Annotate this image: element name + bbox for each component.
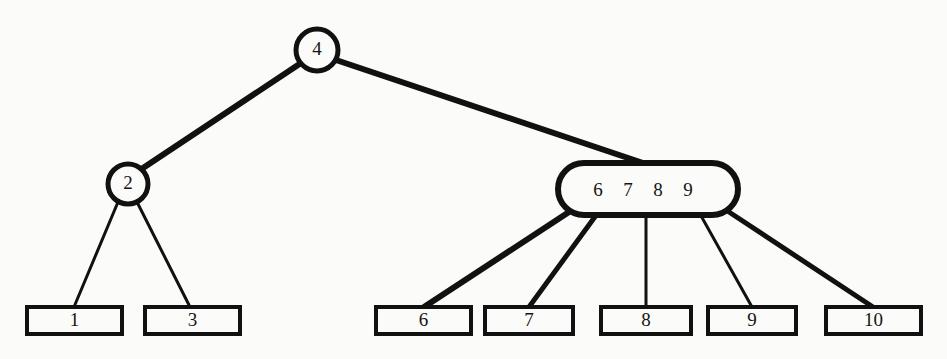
- edge-multikey-to-leaf6: [424, 212, 569, 307]
- leaf-node-6-label: 6: [419, 309, 429, 330]
- root-node[interactable]: 4: [296, 29, 338, 71]
- leaf-node-1-label: 1: [70, 309, 80, 330]
- root-node-label: 4: [312, 38, 322, 59]
- edge-multikey-to-leaf9: [700, 214, 752, 307]
- edge-root-to-node2: [140, 63, 301, 170]
- diagram-canvas: 4 2 6 7 8 9 1 3 6: [0, 0, 947, 359]
- leaf-node-1[interactable]: 1: [27, 307, 122, 334]
- leaf-node-10[interactable]: 10: [826, 307, 921, 334]
- multikey-node-key-2: 8: [653, 179, 663, 200]
- multikey-node-shape: [558, 163, 738, 215]
- leaf-node-8[interactable]: 8: [601, 307, 691, 334]
- leaf-node-8-label: 8: [641, 309, 651, 330]
- internal-node-2[interactable]: 2: [108, 164, 148, 204]
- leaf-node-10-label: 10: [864, 309, 883, 330]
- multikey-node-key-3: 9: [683, 179, 693, 200]
- tree-diagram: 4 2 6 7 8 9 1 3 6: [0, 0, 947, 359]
- leaf-node-9[interactable]: 9: [708, 307, 796, 334]
- leaf-group: 1 3 6 7 8 9 10: [27, 307, 921, 334]
- multikey-node[interactable]: 6 7 8 9: [558, 163, 738, 215]
- leaf-node-7-label: 7: [524, 309, 534, 330]
- multikey-node-key-1: 7: [623, 179, 633, 200]
- leaf-node-3-label: 3: [188, 309, 198, 330]
- edge-group: [74, 60, 873, 307]
- edge-multikey-to-leaf10: [729, 212, 873, 307]
- leaf-node-9-label: 9: [747, 309, 757, 330]
- internal-node-2-label: 2: [123, 172, 133, 193]
- edge-node2-to-leaf3: [137, 202, 190, 307]
- edge-root-to-multikey: [336, 60, 643, 163]
- leaf-node-6[interactable]: 6: [376, 307, 471, 334]
- multikey-node-key-0: 6: [593, 179, 603, 200]
- leaf-node-3[interactable]: 3: [145, 307, 240, 334]
- leaf-node-7[interactable]: 7: [485, 307, 573, 334]
- edge-node2-to-leaf1: [74, 202, 118, 307]
